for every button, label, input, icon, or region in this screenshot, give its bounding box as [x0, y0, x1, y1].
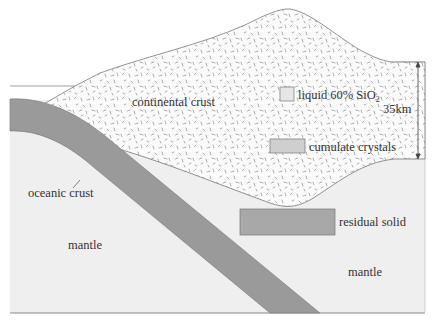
label-continental-crust: continental crust: [132, 95, 215, 109]
label-liquid: liquid 60% SiO2: [298, 88, 380, 104]
label-mantle-left: mantle: [68, 238, 102, 252]
subduction-diagram: continental crust liquid 60% SiO2 35km c…: [0, 0, 433, 323]
residual-solid-block: [240, 209, 335, 235]
label-scale: 35km: [383, 102, 412, 116]
liquid-swatch: [280, 87, 294, 101]
label-oceanic-crust: oceanic crust: [28, 186, 94, 200]
label-cumulate: cumulate crystals: [309, 140, 396, 154]
label-mantle-right: mantle: [348, 265, 382, 279]
label-residual-solid: residual solid: [339, 215, 407, 229]
cumulate-swatch: [270, 139, 305, 153]
